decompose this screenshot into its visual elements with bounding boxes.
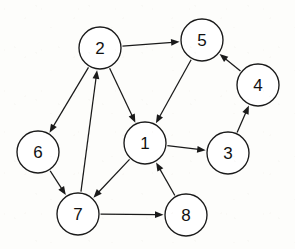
edge-6-to-7 [50, 171, 62, 189]
edge-4-to-5 [225, 58, 240, 70]
arrowhead-2-to-1 [129, 114, 136, 123]
edge-8-to-1 [160, 169, 175, 196]
edge-3-to-4 [237, 112, 246, 132]
node-label-3: 3 [223, 144, 232, 163]
graph-node-1[interactable]: 1 [124, 122, 166, 164]
arrowhead-8-to-1 [156, 163, 163, 172]
diagram-canvas: 12345678 [0, 0, 295, 249]
node-label-7: 7 [73, 205, 82, 224]
edge-7-to-2 [81, 77, 96, 191]
graph-node-8[interactable]: 8 [165, 194, 207, 236]
edge-2-to-5 [122, 42, 172, 46]
graph-node-6[interactable]: 6 [17, 131, 59, 173]
graph-node-2[interactable]: 2 [79, 27, 121, 69]
arrowhead-1-to-3 [197, 146, 206, 153]
arrowhead-6-to-7 [58, 186, 65, 195]
arrowhead-7-to-2 [93, 70, 100, 79]
node-label-4: 4 [253, 76, 262, 95]
node-label-8: 8 [181, 206, 190, 225]
edge-5-to-1 [159, 60, 191, 118]
edge-1-to-7 [98, 159, 129, 192]
edge-2-to-1 [110, 68, 133, 116]
node-label-2: 2 [95, 39, 104, 58]
arrowhead-4-to-5 [220, 54, 229, 62]
arrowhead-2-to-6 [50, 124, 57, 133]
graph-node-5[interactable]: 5 [181, 19, 223, 61]
node-label-1: 1 [140, 134, 149, 153]
graph-svg: 12345678 [0, 0, 295, 249]
arrowhead-7-to-8 [155, 211, 164, 218]
graph-node-3[interactable]: 3 [207, 132, 249, 174]
arrowhead-5-to-1 [156, 114, 163, 123]
node-label-6: 6 [33, 143, 42, 162]
arrowhead-2-to-5 [171, 39, 180, 46]
arrowhead-3-to-4 [242, 106, 249, 115]
edge-2-to-6 [53, 67, 88, 126]
edge-7-to-8 [101, 214, 157, 215]
graph-node-4[interactable]: 4 [237, 64, 279, 106]
node-label-5: 5 [197, 31, 206, 50]
graph-node-7[interactable]: 7 [57, 193, 99, 235]
edge-1-to-3 [167, 146, 198, 150]
